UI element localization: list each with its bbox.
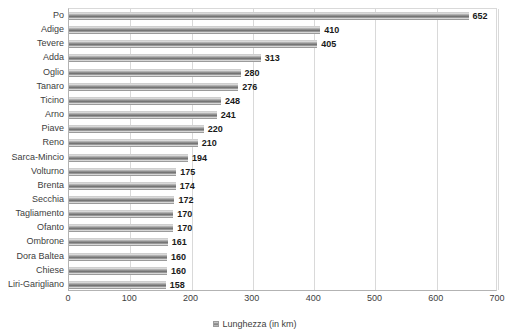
bar[interactable]	[69, 224, 173, 232]
bar[interactable]	[69, 196, 174, 204]
bar-value-label: 220	[208, 122, 223, 136]
bar-row: 172	[69, 193, 496, 207]
bar[interactable]	[69, 168, 176, 176]
x-tick-label: 0	[65, 293, 70, 303]
category-label: Sarca-Mincio	[0, 150, 64, 164]
x-tick-label: 100	[122, 293, 137, 303]
chart-legend: Lunghezza (in km)	[0, 318, 510, 329]
category-label: Chiese	[0, 263, 64, 277]
legend-swatch-icon	[213, 321, 219, 327]
bar-row: 174	[69, 179, 496, 193]
category-label: Po	[0, 8, 64, 22]
bar-row: 175	[69, 165, 496, 179]
gridline	[498, 9, 499, 290]
bar[interactable]	[69, 281, 166, 289]
bar-row: 652	[69, 9, 496, 23]
category-label: Tanaro	[0, 79, 64, 93]
legend-label: Lunghezza (in km)	[222, 319, 296, 329]
bar-value-label: 194	[192, 151, 207, 165]
category-label: Ofanto	[0, 220, 64, 234]
bar-value-label: 172	[178, 193, 193, 207]
x-tick-label: 500	[367, 293, 382, 303]
bar-row: 160	[69, 250, 496, 264]
category-label: Volturno	[0, 164, 64, 178]
bar-chart: PoAdigeTevereAddaOglioTanaroTicinoArnoPi…	[0, 0, 510, 333]
category-label: Ticino	[0, 93, 64, 107]
x-tick-label: 400	[306, 293, 321, 303]
bar-row: 210	[69, 136, 496, 150]
bar-value-label: 158	[170, 278, 185, 292]
bar-value-label: 410	[324, 23, 339, 37]
category-label: Secchia	[0, 192, 64, 206]
category-label: Piave	[0, 121, 64, 135]
bar-value-label: 276	[242, 80, 257, 94]
bar-row: 220	[69, 122, 496, 136]
bar[interactable]	[69, 40, 317, 48]
bar[interactable]	[69, 83, 238, 91]
value-axis: 0100200300400500600700	[68, 293, 497, 309]
bar-row: 158	[69, 278, 496, 292]
bar-value-label: 248	[225, 94, 240, 108]
bar-row: 248	[69, 94, 496, 108]
bar-row: 170	[69, 207, 496, 221]
bar[interactable]	[69, 125, 204, 133]
bar-row: 241	[69, 108, 496, 122]
x-tick-label: 600	[428, 293, 443, 303]
bar[interactable]	[69, 210, 173, 218]
bar[interactable]	[69, 69, 241, 77]
legend-entry: Lunghezza (in km)	[213, 318, 296, 329]
category-label: Ombrone	[0, 234, 64, 248]
bar-value-label: 170	[177, 221, 192, 235]
x-tick-label: 300	[244, 293, 259, 303]
bar-value-label: 160	[171, 250, 186, 264]
bar-value-label: 280	[245, 66, 260, 80]
x-tick-label: 700	[489, 293, 504, 303]
bar[interactable]	[69, 267, 167, 275]
bar-row: 276	[69, 80, 496, 94]
bar[interactable]	[69, 154, 188, 162]
category-label: Arno	[0, 107, 64, 121]
bar-value-label: 175	[180, 165, 195, 179]
bar-value-label: 405	[321, 37, 336, 51]
bar-row: 160	[69, 264, 496, 278]
x-tick-label: 200	[183, 293, 198, 303]
bar-row: 170	[69, 221, 496, 235]
bar-value-label: 161	[172, 235, 187, 249]
bar-value-label: 170	[177, 207, 192, 221]
bar[interactable]	[69, 26, 320, 34]
category-label: Reno	[0, 135, 64, 149]
plot-area: 6524104053132802762482412202101941751741…	[68, 8, 497, 291]
bar[interactable]	[69, 139, 198, 147]
bar[interactable]	[69, 97, 221, 105]
category-label: Tagliamento	[0, 206, 64, 220]
bar[interactable]	[69, 12, 469, 20]
bar-row: 280	[69, 66, 496, 80]
bar-value-label: 160	[171, 264, 186, 278]
category-label: Tevere	[0, 36, 64, 50]
bar-value-label: 174	[180, 179, 195, 193]
category-label: Oglio	[0, 65, 64, 79]
bar[interactable]	[69, 238, 168, 246]
bar-row: 410	[69, 23, 496, 37]
bar-value-label: 652	[473, 9, 488, 23]
bar-rows: 6524104053132802762482412202101941751741…	[69, 9, 496, 290]
bar[interactable]	[69, 54, 261, 62]
bar[interactable]	[69, 111, 217, 119]
bar-row: 405	[69, 37, 496, 51]
bar-row: 194	[69, 151, 496, 165]
bar[interactable]	[69, 182, 176, 190]
category-label: Adda	[0, 50, 64, 64]
category-axis-labels: PoAdigeTevereAddaOglioTanaroTicinoArnoPi…	[0, 8, 64, 291]
category-label: Adige	[0, 22, 64, 36]
category-label: Liri-Garigliano	[0, 277, 64, 291]
category-label: Brenta	[0, 178, 64, 192]
bar-value-label: 210	[202, 136, 217, 150]
bar-row: 313	[69, 51, 496, 65]
bar-value-label: 241	[221, 108, 236, 122]
bar-value-label: 313	[265, 51, 280, 65]
bar-row: 161	[69, 235, 496, 249]
category-label: Dora Baltea	[0, 249, 64, 263]
bar[interactable]	[69, 253, 167, 261]
